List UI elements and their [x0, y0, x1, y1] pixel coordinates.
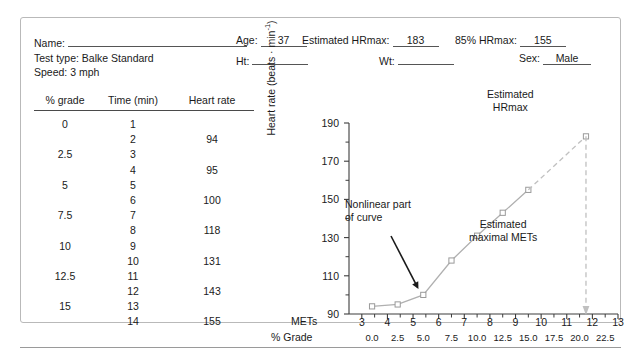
height-label: Ht:: [236, 55, 249, 67]
sex-input[interactable]: Male: [543, 52, 591, 65]
y-axis-label-text: Heart rate (beats · min: [265, 31, 277, 136]
test-data-table-wrapper: % grade Time (min) Heart rate 012942.534…: [34, 94, 254, 329]
grade-tick-label: 2.5: [391, 332, 404, 343]
grade-tick-label: 7.5: [445, 332, 458, 343]
cell-heart-rate: [170, 147, 254, 162]
cell-grade: [34, 132, 96, 147]
cell-heart-rate: 118: [170, 223, 254, 238]
cell-grade: [34, 223, 96, 238]
table-row: 109: [34, 238, 254, 253]
estimated-hrmax-input[interactable]: 183: [393, 34, 439, 47]
table-row: 12143: [34, 283, 254, 298]
chart-line-extrapolated: [528, 136, 586, 189]
table-row: 495: [34, 162, 254, 177]
cell-heart-rate: [170, 268, 254, 283]
cell-heart-rate: 131: [170, 253, 254, 268]
table-row: 2.53: [34, 147, 254, 162]
table-row: 8118: [34, 223, 254, 238]
column-header-time: Time (min): [96, 94, 170, 111]
cell-time: 8: [96, 223, 170, 238]
grade-tick-label: 20.0: [570, 332, 589, 343]
cell-heart-rate: 143: [170, 283, 254, 298]
cell-grade: 12.5: [34, 268, 96, 283]
chart-y-axis-label: Heart rate (beats · min-1): [263, 8, 277, 148]
cell-heart-rate: 155: [170, 314, 254, 329]
table-row: 294: [34, 132, 254, 147]
cell-heart-rate: 94: [170, 132, 254, 147]
cell-heart-rate: 95: [170, 162, 254, 177]
cell-grade: [34, 314, 96, 329]
x-tick-label: 6: [436, 316, 442, 328]
grade-tick-label: 5.0: [417, 332, 430, 343]
cell-grade: [34, 192, 96, 207]
cell-grade: 15: [34, 299, 96, 314]
cell-heart-rate: [170, 238, 254, 253]
cell-time: 12: [96, 283, 170, 298]
age-label: Age:: [236, 34, 258, 46]
nonlinear-annotation-arrow-shaft: [391, 236, 417, 287]
x-tick-label: 5: [410, 316, 416, 328]
name-field[interactable]: Name:: [34, 34, 247, 50]
cell-grade: 5: [34, 177, 96, 192]
grade-tick-label: 12.5: [493, 332, 512, 343]
estimated-hrmax-field[interactable]: Estimated HRmax:183: [302, 34, 439, 47]
table-row: 10131: [34, 253, 254, 268]
chart-data-point: [421, 292, 426, 297]
x-axis-name-mets: METs: [291, 315, 317, 327]
cell-grade: 7.5: [34, 208, 96, 223]
hrmax-annotation-line2: HRmax: [487, 101, 534, 114]
cell-time: 7: [96, 208, 170, 223]
estimated-hrmax-label: Estimated HRmax:: [302, 34, 390, 46]
test-data-table: % grade Time (min) Heart rate 012942.534…: [34, 94, 254, 329]
cell-grade: 10: [34, 238, 96, 253]
column-header-heart-rate: Heart rate: [170, 94, 254, 111]
cell-time: 14: [96, 314, 170, 329]
cell-time: 11: [96, 268, 170, 283]
grade-tick-label: 10.0: [468, 332, 487, 343]
name-label: Name:: [34, 37, 65, 49]
patient-form: Name: Test type: Balke Standard Speed: 3…: [21, 18, 622, 84]
chart-data-point: [500, 210, 505, 215]
hrmax-85-field[interactable]: 85% HRmax:155: [455, 34, 566, 47]
speed-label: Speed: 3 mph: [34, 66, 99, 79]
cell-time: 4: [96, 162, 170, 177]
hrmax-85-label: 85% HRmax:: [455, 34, 517, 46]
nonlinear-annotation-line1: Nonlinear part: [345, 198, 411, 211]
grade-tick-label: 17.5: [545, 332, 564, 343]
name-input[interactable]: [68, 34, 247, 47]
x-tick-label: 9: [513, 316, 519, 328]
cell-heart-rate: [170, 177, 254, 192]
table-row: 6100: [34, 192, 254, 207]
cell-grade: 0: [34, 111, 96, 132]
cell-grade: [34, 283, 96, 298]
cell-time: 2: [96, 132, 170, 147]
heart-rate-chart: Heart rate (beats · min-1) 9011013015017…: [269, 90, 619, 320]
cell-heart-rate: 100: [170, 192, 254, 207]
weight-input[interactable]: [398, 52, 454, 65]
nonlinear-annotation-line2: of curve: [345, 211, 411, 224]
x-tick-label: 12: [587, 316, 599, 328]
y-tick-label: 170: [313, 155, 339, 167]
x-tick-label: 7: [461, 316, 467, 328]
grade-tick-label: 15.0: [519, 332, 538, 343]
chart-data-point: [369, 304, 374, 309]
table-row: 1513: [34, 299, 254, 314]
x-axis-name-grade: % Grade: [271, 331, 312, 343]
sex-field[interactable]: Sex:Male: [519, 52, 591, 65]
x-tick-label: 13: [612, 316, 624, 328]
y-axis-label-exponent: -1: [263, 24, 272, 31]
cell-heart-rate: [170, 299, 254, 314]
cell-time: 5: [96, 177, 170, 192]
y-tick-label: 150: [313, 193, 339, 205]
weight-field[interactable]: Wt:: [379, 52, 454, 68]
cell-time: 6: [96, 192, 170, 207]
cell-time: 13: [96, 299, 170, 314]
table-row: 55: [34, 177, 254, 192]
hrmax-85-input[interactable]: 155: [520, 34, 566, 47]
table-row: 01: [34, 111, 254, 132]
cell-heart-rate: [170, 208, 254, 223]
cell-time: 10: [96, 253, 170, 268]
height-input[interactable]: [252, 52, 308, 65]
cell-grade: [34, 253, 96, 268]
nonlinear-part-annotation: Nonlinear part of curve: [345, 198, 411, 223]
